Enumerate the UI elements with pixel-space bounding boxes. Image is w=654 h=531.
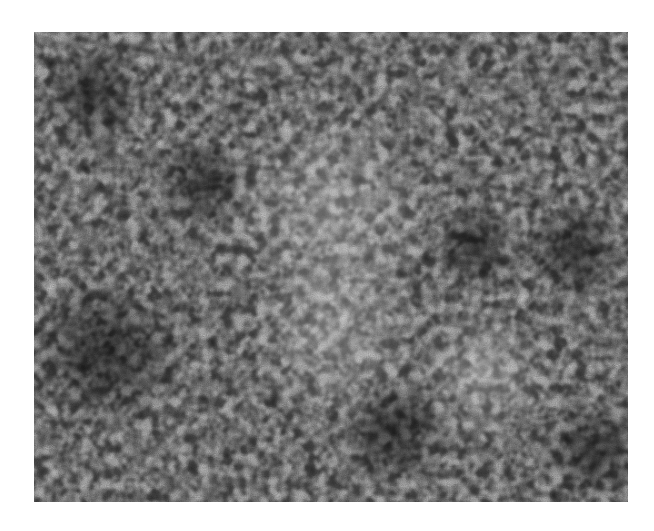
speckle-texture [34, 32, 628, 502]
dark-blotch [524, 202, 624, 302]
dark-blotch [44, 42, 144, 142]
dark-blotch [339, 377, 449, 487]
dark-blotch [159, 137, 249, 227]
micrograph-image [34, 32, 628, 502]
page-canvas [0, 0, 654, 531]
dark-blotch [429, 202, 519, 292]
